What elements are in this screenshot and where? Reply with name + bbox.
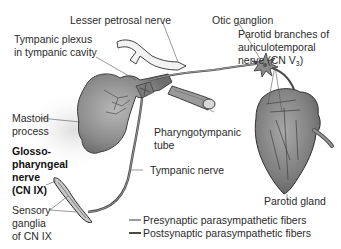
label-sensory-1: Sensory — [12, 204, 51, 216]
label-pharyngotympanic-1: Pharyngotympanic — [154, 126, 241, 138]
legend-swatch-postsynaptic — [129, 232, 141, 234]
legend-label-postsynaptic: Postsynaptic parasympathetic fibers — [143, 227, 311, 239]
legend-label-presynaptic: Presynaptic parasympathetic fibers — [143, 214, 306, 226]
label-glosso-3: nerve — [12, 171, 40, 183]
diagram-canvas: Lesser petrosal nerve Otic ganglion Tymp… — [0, 0, 341, 249]
label-glosso-4: (CN IX) — [12, 184, 47, 196]
label-tympanic-plexus-2: in tympanic cavity — [14, 46, 97, 58]
lesser-petrosal-canal — [117, 40, 186, 70]
label-lesser-petrosal-nerve: Lesser petrosal nerve — [70, 14, 171, 26]
label-parotid-branches-3-text: nerve (CN V — [238, 54, 296, 66]
legend-postsynaptic: Postsynaptic parasympathetic fibers — [129, 227, 311, 239]
label-mastoid-2: process — [12, 125, 49, 137]
parotid-gland — [255, 89, 332, 194]
label-parotid-branches-2: auriculotemporal — [238, 41, 316, 53]
label-parotid-branches-3-close: ) — [300, 54, 304, 66]
legend-presynaptic: Presynaptic parasympathetic fibers — [129, 214, 306, 226]
label-mastoid-1: Mastoid — [12, 112, 49, 124]
label-tympanic-plexus-1: Tympanic plexus — [14, 33, 92, 45]
label-glosso-2: pharyngeal — [12, 158, 68, 170]
label-pharyngotympanic-2: tube — [154, 139, 174, 151]
glossopharyngeal-nerve — [54, 178, 92, 223]
label-parotid-branches-3: nerve (CN V3) — [238, 54, 303, 70]
label-sensory-3: of CN IX — [12, 230, 52, 242]
label-tympanic-nerve: Tympanic nerve — [150, 164, 224, 176]
pharyngotympanic-tube — [168, 86, 215, 110]
label-parotid-branches-1: Parotid branches of — [238, 28, 329, 40]
legend-swatch-presynaptic — [129, 219, 141, 221]
label-otic-ganglion: Otic ganglion — [212, 14, 273, 26]
label-glosso-1: Glosso- — [12, 145, 51, 157]
label-sensory-2: ganglia — [12, 217, 46, 229]
label-parotid-gland: Parotid gland — [264, 195, 326, 207]
